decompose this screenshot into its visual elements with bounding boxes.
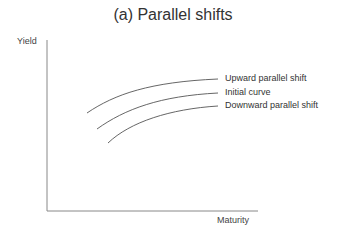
legend-upward: Upward parallel shift: [225, 73, 307, 83]
legend-downward: Downward parallel shift: [225, 100, 318, 110]
downward-curve: [108, 106, 218, 143]
legend-initial: Initial curve: [225, 87, 271, 97]
chart-canvas: [0, 0, 346, 237]
initial-curve: [97, 93, 218, 129]
